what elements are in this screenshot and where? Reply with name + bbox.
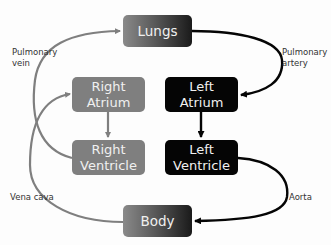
node-lungs: Lungs (123, 15, 192, 47)
label-pulmonary-artery: Pulmonary artery (282, 47, 327, 69)
node-left-atrium-line1: Left (189, 79, 213, 95)
node-right-ventricle-line2: Ventricle (80, 158, 137, 174)
label-pulmonary-vein-line1: Pulmonary (12, 47, 57, 58)
node-body: Body (123, 205, 192, 237)
label-pulmonary-artery-line2: artery (282, 58, 327, 69)
node-left-ventricle-line1: Left (189, 142, 213, 158)
node-left-ventricle-line2: Ventricle (173, 158, 230, 174)
node-right-atrium: Right Atrium (72, 77, 145, 112)
label-pulmonary-artery-line1: Pulmonary (282, 47, 327, 58)
node-right-ventricle-line1: Right (91, 142, 125, 158)
label-vena-cava: Vena cava (10, 192, 54, 203)
node-lungs-label: Lungs (138, 23, 178, 39)
node-right-atrium-line1: Right (91, 79, 125, 95)
label-pulmonary-vein-line2: vein (12, 58, 57, 69)
label-aorta-line1: Aorta (289, 192, 312, 203)
node-left-atrium: Left Atrium (165, 77, 238, 112)
node-right-atrium-line2: Atrium (87, 95, 131, 111)
label-aorta: Aorta (289, 192, 312, 203)
node-left-atrium-line2: Atrium (180, 95, 224, 111)
node-body-label: Body (140, 213, 174, 229)
node-left-ventricle: Left Ventricle (165, 140, 238, 175)
label-vena-cava-line1: Vena cava (10, 192, 54, 203)
node-right-ventricle: Right Ventricle (72, 140, 145, 175)
label-pulmonary-vein: Pulmonary vein (12, 47, 57, 69)
